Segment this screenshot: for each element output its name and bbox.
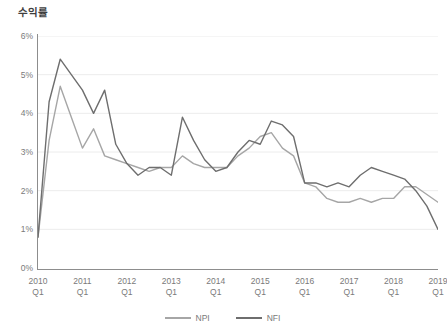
x-tick-year: 2019 — [429, 276, 447, 287]
x-tick-quarter: Q1 — [117, 287, 136, 298]
x-tick-quarter: Q1 — [429, 287, 447, 298]
x-tick-year: 2010 — [29, 276, 48, 287]
legend-item-npi[interactable]: NPI — [165, 314, 210, 323]
x-tick-label: 2012Q1 — [117, 276, 136, 297]
x-tick-label: 2015Q1 — [251, 276, 270, 297]
chart-legend: NPINFI — [0, 309, 445, 327]
x-tick-label: 2011Q1 — [73, 276, 91, 297]
series-line-npi — [38, 86, 438, 237]
x-tick-quarter: Q1 — [206, 287, 225, 298]
y-tick-label: 3% — [21, 148, 33, 157]
y-tick-label: 1% — [21, 225, 33, 234]
series-lines — [38, 36, 438, 268]
x-tick-label: 2016Q1 — [295, 276, 314, 297]
legend-label: NPI — [196, 314, 210, 323]
x-tick-quarter: Q1 — [295, 287, 314, 298]
x-tick-year: 2018 — [384, 276, 403, 287]
x-tick-quarter: Q1 — [384, 287, 403, 298]
y-tick-label: 2% — [21, 187, 33, 196]
y-tick-label: 0% — [21, 264, 33, 273]
y-tick-label: 6% — [21, 32, 33, 41]
page-title: 수익률 — [18, 4, 49, 19]
x-tick-label: 2014Q1 — [206, 276, 225, 297]
y-axis-tick-labels: 0%1%2%3%4%5%6% — [0, 36, 33, 268]
legend-swatch-icon — [165, 317, 191, 319]
x-tick-year: 2011 — [73, 276, 91, 287]
x-tick-label: 2018Q1 — [384, 276, 403, 297]
y-tick-label: 4% — [21, 109, 33, 118]
plot-area — [38, 36, 438, 268]
x-tick-quarter: Q1 — [251, 287, 270, 298]
x-tick-year: 2017 — [340, 276, 359, 287]
legend-item-nfi[interactable]: NFI — [236, 314, 281, 323]
x-tick-year: 2013 — [162, 276, 181, 287]
x-tick-label: 2010Q1 — [29, 276, 48, 297]
x-axis-line — [37, 269, 438, 270]
x-tick-label: 2019Q1 — [429, 276, 447, 297]
y-tick-label: 5% — [21, 71, 33, 80]
x-axis-tick-labels: 2010Q12011Q12012Q12013Q12014Q12015Q12016… — [38, 276, 438, 304]
legend-label: NFI — [267, 314, 281, 323]
x-tick-year: 2014 — [206, 276, 225, 287]
legend-swatch-icon — [236, 317, 262, 319]
x-tick-quarter: Q1 — [73, 287, 91, 298]
series-line-nfi — [38, 59, 438, 237]
x-tick-quarter: Q1 — [340, 287, 359, 298]
x-tick-quarter: Q1 — [162, 287, 181, 298]
x-tick-year: 2012 — [117, 276, 136, 287]
x-tick-label: 2017Q1 — [340, 276, 359, 297]
x-tick-year: 2015 — [251, 276, 270, 287]
x-tick-label: 2013Q1 — [162, 276, 181, 297]
x-tick-quarter: Q1 — [29, 287, 48, 298]
x-tick-year: 2016 — [295, 276, 314, 287]
